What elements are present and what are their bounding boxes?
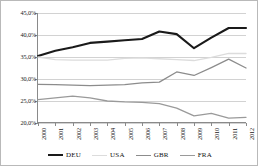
legend-swatch-fra xyxy=(180,155,195,156)
series-line-fra xyxy=(38,96,246,118)
x-axis-tick-mark xyxy=(229,123,230,126)
x-axis-tick-label: 2004 xyxy=(110,128,116,140)
legend-item-deu[interactable]: DEU xyxy=(48,152,81,159)
x-axis-tick-label: 2012 xyxy=(249,128,255,140)
y-axis-tick-label: 40,0% xyxy=(2,32,36,38)
series-line-deu xyxy=(38,28,246,56)
x-axis-tick-mark xyxy=(142,123,143,126)
legend-label: FRA xyxy=(198,152,212,159)
legend-label: USA xyxy=(110,152,125,159)
series-line-gbr xyxy=(38,59,246,85)
x-axis-tick-mark xyxy=(107,123,108,126)
x-axis-tick-label: 2001 xyxy=(58,128,64,140)
x-axis-tick-label: 2007 xyxy=(162,128,168,140)
y-axis-tick-label: 30,0% xyxy=(2,76,36,82)
x-axis-tick-mark xyxy=(177,123,178,126)
x-axis-tick-mark xyxy=(159,123,160,126)
x-axis-tick-label: 2011 xyxy=(232,128,238,140)
x-axis-tick-label: 2010 xyxy=(214,128,220,140)
chart-legend: DEUUSAGBRFRA xyxy=(1,149,259,161)
x-axis-tick-label: 2003 xyxy=(93,128,99,140)
legend-swatch-usa xyxy=(92,155,107,156)
series-line-usa xyxy=(38,53,246,60)
chart-figure: 45,0%40,0%35,0%30,0%25,0%20,0% 200020012… xyxy=(0,0,258,166)
legend-swatch-gbr xyxy=(136,155,151,156)
legend-label: DEU xyxy=(66,152,81,159)
x-axis-tick-mark xyxy=(194,123,195,126)
x-axis-tick-mark xyxy=(38,123,39,126)
plot-area: 45,0%40,0%35,0%30,0%25,0%20,0% 200020012… xyxy=(37,13,246,123)
legend-label: GBR xyxy=(154,152,169,159)
x-axis-tick-mark xyxy=(125,123,126,126)
legend-item-gbr[interactable]: GBR xyxy=(136,152,169,159)
x-axis-tick-mark xyxy=(246,123,247,126)
x-axis-tick-label: 2006 xyxy=(145,128,151,140)
legend-item-usa[interactable]: USA xyxy=(92,152,125,159)
x-axis-tick-mark xyxy=(73,123,74,126)
x-axis-tick-mark xyxy=(55,123,56,126)
y-axis-tick-label: 25,0% xyxy=(2,98,36,104)
series-lines xyxy=(38,13,247,123)
x-axis-tick-label: 2000 xyxy=(41,128,47,140)
legend-item-fra[interactable]: FRA xyxy=(180,152,212,159)
x-axis-tick-label: 2002 xyxy=(76,128,82,140)
y-axis-tick-label: 45,0% xyxy=(2,10,36,16)
x-axis-tick-mark xyxy=(90,123,91,126)
x-axis-tick-label: 2008 xyxy=(180,128,186,140)
x-axis-tick-label: 2005 xyxy=(128,128,134,140)
y-axis-tick-label: 35,0% xyxy=(2,54,36,60)
legend-swatch-deu xyxy=(48,154,63,156)
x-axis-tick-mark xyxy=(211,123,212,126)
y-axis-tick-label: 20,0% xyxy=(2,120,36,126)
x-axis-tick-label: 2009 xyxy=(197,128,203,140)
